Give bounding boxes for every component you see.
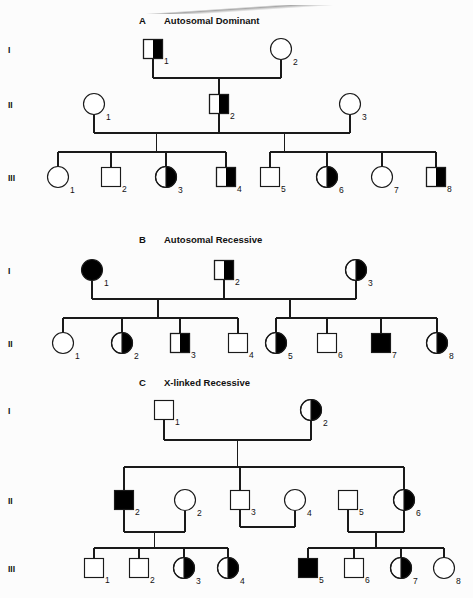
individual-C-II-2[interactable]: 2 <box>175 490 203 519</box>
symbol-circle-unaffected[interactable] <box>84 94 105 115</box>
individual-C-I-2[interactable]: 2 <box>301 400 329 429</box>
individual-C-II-6[interactable]: 6 <box>394 490 422 519</box>
individual-number-label: 8 <box>447 184 452 194</box>
individual-B-II-6[interactable]: 6 <box>318 334 344 361</box>
individual-number-label: 3 <box>178 185 183 195</box>
individual-C-II-3[interactable]: 3 <box>231 491 257 518</box>
panel-C-letter: C <box>139 377 146 388</box>
symbol-circle-affected[interactable] <box>82 260 103 281</box>
individual-C-III-7[interactable]: 7 <box>391 558 419 587</box>
symbol-circle-half-fill <box>401 558 412 579</box>
individual-B-I-3[interactable]: 3 <box>346 260 374 289</box>
symbol-square-unaffected[interactable] <box>318 334 337 353</box>
individual-C-III-5[interactable]: 5 <box>299 559 325 586</box>
symbol-circle-unaffected[interactable] <box>53 333 74 354</box>
symbol-circle-unaffected[interactable] <box>175 490 196 511</box>
individual-C-I-1[interactable]: 1 <box>155 401 181 428</box>
panel-A-letter: A <box>139 15 146 26</box>
symbol-circle-unaffected[interactable] <box>372 167 393 188</box>
individual-A-III-6[interactable]: 6 <box>317 167 345 196</box>
individual-B-II-4[interactable]: 4 <box>229 334 255 361</box>
individual-B-II-3[interactable]: 3 <box>171 334 197 361</box>
individual-number-label: 2 <box>323 418 328 428</box>
symbol-square-half-fill <box>224 261 234 280</box>
gen-label-B-I: I <box>8 266 10 276</box>
symbol-circle-unaffected[interactable] <box>48 167 69 188</box>
symbol-square-half-fill <box>219 95 229 114</box>
individual-A-II-1[interactable]: 1 <box>84 94 112 123</box>
symbol-square-half-fill <box>436 168 446 187</box>
individual-C-II-4[interactable]: 4 <box>285 490 313 519</box>
gen-label-A-III: III <box>8 173 15 183</box>
individual-A-I-2[interactable]: 2 <box>271 39 299 68</box>
individual-number-label: 3 <box>368 278 373 288</box>
symbol-square-unaffected[interactable] <box>345 559 364 578</box>
individual-number-label: 1 <box>75 351 80 361</box>
individual-number-label: 3 <box>196 576 201 586</box>
individual-A-III-4[interactable]: 4 <box>217 168 243 195</box>
individual-A-I-1[interactable]: 1 <box>144 40 170 67</box>
symbol-circle-half-fill <box>404 490 415 511</box>
symbol-circle-half-fill <box>184 558 195 579</box>
panel-B-letter: B <box>139 234 146 245</box>
individual-A-III-2[interactable]: 2 <box>102 168 128 195</box>
symbol-circle-unaffected[interactable] <box>271 39 292 60</box>
symbol-square-unaffected[interactable] <box>261 168 280 187</box>
individual-number-label: 7 <box>413 576 418 586</box>
individual-B-II-8[interactable]: 8 <box>427 333 455 362</box>
individual-B-II-7[interactable]: 7 <box>372 334 398 361</box>
individual-B-II-5[interactable]: 5 <box>266 333 294 362</box>
individual-C-III-4[interactable]: 4 <box>218 558 246 587</box>
symbol-circle-unaffected[interactable] <box>340 94 361 115</box>
symbol-square-unaffected[interactable] <box>231 491 250 510</box>
individual-B-I-2[interactable]: 2 <box>215 261 241 288</box>
symbol-circle-unaffected[interactable] <box>285 490 306 511</box>
symbol-square-unaffected[interactable] <box>102 168 121 187</box>
gen-label-C-II: II <box>8 496 13 506</box>
individual-B-I-1[interactable]: 1 <box>82 260 110 289</box>
individual-A-II-2[interactable]: 2 <box>210 95 236 122</box>
gen-label-A-II: II <box>8 100 13 110</box>
gen-label-B-II: II <box>8 339 13 349</box>
individual-C-II-2[interactable]: 2 <box>115 491 141 518</box>
symbol-square-affected[interactable] <box>299 559 318 578</box>
individual-number-label: 1 <box>104 278 109 288</box>
symbol-square-unaffected[interactable] <box>155 401 174 420</box>
symbol-circle-half-fill <box>327 167 338 188</box>
symbol-square-unaffected[interactable] <box>229 334 248 353</box>
individual-C-III-6[interactable]: 6 <box>345 559 371 586</box>
symbol-circle-half-fill <box>228 558 239 579</box>
individual-number-label: 6 <box>416 508 421 518</box>
individual-C-III-1[interactable]: 1 <box>85 559 111 586</box>
individual-A-III-3[interactable]: 3 <box>156 167 184 196</box>
individual-number-label: 7 <box>392 350 397 360</box>
symbol-square-unaffected[interactable] <box>85 559 104 578</box>
individual-A-III-5[interactable]: 5 <box>261 168 287 195</box>
pedigree-svg-canvas: AAutosomal DominantBAutosomal RecessiveC… <box>0 0 473 598</box>
individual-number-label: 1 <box>70 185 75 195</box>
individual-C-III-2[interactable]: 2 <box>130 559 156 586</box>
individual-C-III-8[interactable]: 8 <box>434 558 462 587</box>
symbol-square-affected[interactable] <box>372 334 391 353</box>
individual-C-II-5[interactable]: 5 <box>339 491 365 518</box>
individual-number-label: 3 <box>191 350 196 360</box>
individual-number-label: 1 <box>175 417 180 427</box>
symbol-square-affected[interactable] <box>115 491 134 510</box>
individual-B-II-1[interactable]: 1 <box>53 333 81 362</box>
pedigree-figure-sheet: AAutosomal DominantBAutosomal RecessiveC… <box>0 0 473 598</box>
individual-number-label: 7 <box>394 185 399 195</box>
individual-A-III-8[interactable]: 8 <box>427 168 453 195</box>
individual-A-II-3[interactable]: 3 <box>340 94 368 123</box>
symbol-circle-half-fill <box>437 333 448 354</box>
individual-C-III-3[interactable]: 3 <box>174 558 202 587</box>
symbol-square-unaffected[interactable] <box>130 559 149 578</box>
individual-number-label: 1 <box>164 56 169 66</box>
individual-number-label: 4 <box>249 350 254 360</box>
individual-number-label: 5 <box>288 351 293 361</box>
individual-A-III-1[interactable]: 1 <box>48 167 76 196</box>
symbol-square-unaffected[interactable] <box>339 491 358 510</box>
individual-number-label: 3 <box>362 112 367 122</box>
individual-B-II-2[interactable]: 2 <box>112 333 140 362</box>
symbol-circle-unaffected[interactable] <box>434 558 455 579</box>
individual-A-III-7[interactable]: 7 <box>372 167 400 196</box>
